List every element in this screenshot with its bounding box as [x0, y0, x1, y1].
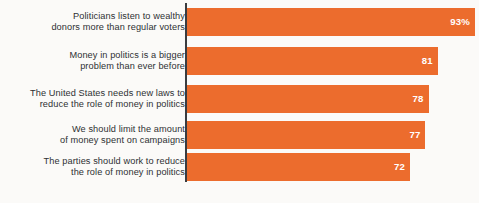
bar-segment: 81	[187, 47, 438, 75]
bar-segment: 78	[187, 85, 429, 113]
bar-value-label: 81	[422, 56, 433, 66]
bar-segment: 93%	[187, 8, 475, 36]
bar-category-label: The United States needs new laws to redu…	[5, 88, 185, 111]
bar-rows: Politicians listen to wealthy donors mor…	[0, 0, 479, 203]
bar-row: Politicians listen to wealthy donors mor…	[0, 8, 479, 36]
bar-value-label: 78	[412, 94, 423, 104]
bar-row: Money in politics is a bigger problem th…	[0, 47, 479, 75]
bar-row: We should limit the amount of money spen…	[0, 121, 479, 149]
bar-row: The United States needs new laws to redu…	[0, 85, 479, 113]
bar-category-label: We should limit the amount of money spen…	[5, 124, 185, 147]
bar-category-label: Money in politics is a bigger problem th…	[5, 50, 185, 73]
bar-segment: 72	[187, 153, 410, 181]
bar-segment: 77	[187, 121, 425, 149]
bar-chart: Politicians listen to wealthy donors mor…	[0, 0, 479, 203]
bar-value-label: 93%	[450, 17, 470, 27]
bar-category-label: The parties should work to reduce the ro…	[5, 156, 185, 179]
bar-value-label: 77	[409, 130, 420, 140]
bar-category-label: Politicians listen to wealthy donors mor…	[5, 11, 185, 34]
bar-row: The parties should work to reduce the ro…	[0, 153, 479, 181]
bar-value-label: 72	[394, 162, 405, 172]
